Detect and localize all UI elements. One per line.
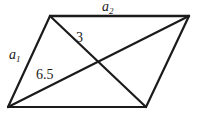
diagonal-long-line — [8, 16, 189, 107]
parallelogram-diagram — [0, 0, 199, 117]
label-a2-subscript: 2 — [109, 6, 114, 16]
label-diagonal-long-value: 6.5 — [36, 68, 54, 82]
label-top-side-a2: a2 — [102, 0, 114, 16]
right-side-line — [146, 16, 189, 107]
label-a1-subscript: 1 — [16, 54, 21, 64]
label-a1-base: a — [9, 47, 16, 62]
label-left-side-a1: a1 — [9, 48, 21, 64]
label-diagonal-short-value: 3 — [76, 31, 83, 45]
geometry-figure: a2 a1 3 6.5 — [0, 0, 199, 117]
label-a2-base: a — [102, 0, 109, 14]
